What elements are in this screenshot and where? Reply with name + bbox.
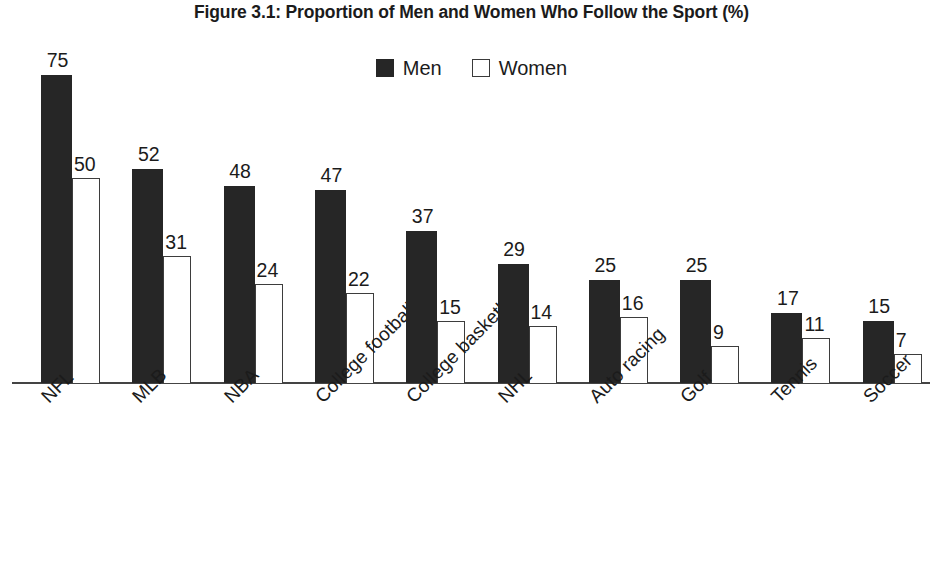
bar-group — [406, 0, 465, 569]
bar-value-label-women: 7 — [896, 331, 907, 351]
bar-value-label-men: 52 — [133, 145, 164, 165]
bar-value-label-men: 29 — [499, 240, 530, 260]
bar-women[interactable] — [72, 178, 100, 383]
bar-women[interactable] — [711, 346, 739, 383]
bar-men[interactable] — [224, 186, 255, 383]
bar-value-label-women: 9 — [713, 323, 724, 343]
bar-group — [498, 0, 557, 569]
bar-value-label-women: 11 — [804, 315, 824, 335]
bar-value-label-men: 15 — [864, 297, 895, 317]
bar-group — [41, 0, 100, 569]
figure-container: Figure 3.1: Proportion of Men and Women … — [0, 0, 943, 569]
bar-men[interactable] — [498, 264, 529, 383]
bar-group — [224, 0, 283, 569]
bar-men[interactable] — [132, 169, 163, 383]
bar-value-label-men: 25 — [681, 256, 712, 276]
bar-value-label-men: 17 — [772, 289, 803, 309]
bar-group — [680, 0, 739, 569]
bar-group — [771, 0, 830, 569]
bar-women[interactable] — [255, 284, 283, 383]
bar-value-label-men: 47 — [316, 166, 347, 186]
bar-value-label-women: 24 — [257, 261, 279, 281]
bar-value-label-women: 50 — [74, 155, 96, 175]
bar-group — [863, 0, 922, 569]
bar-group — [589, 0, 648, 569]
bar-value-label-men: 75 — [42, 51, 73, 71]
bar-value-label-men: 25 — [590, 256, 621, 276]
plot-area: 7550NFL5231MLB4824NBA4722College footbal… — [0, 0, 943, 569]
bar-value-label-women: 15 — [439, 298, 461, 318]
bar-group — [132, 0, 191, 569]
bar-women[interactable] — [529, 326, 557, 383]
bar-value-label-men: 48 — [225, 162, 256, 182]
bar-value-label-women: 31 — [165, 233, 187, 253]
bar-men[interactable] — [41, 75, 72, 383]
bar-value-label-women: 14 — [531, 303, 553, 323]
bar-value-label-women: 22 — [348, 270, 370, 290]
bar-value-label-women: 16 — [622, 294, 644, 314]
bar-value-label-men: 37 — [407, 207, 438, 227]
bar-men[interactable] — [315, 190, 346, 383]
bar-women[interactable] — [163, 256, 191, 383]
bar-men[interactable] — [680, 280, 711, 383]
